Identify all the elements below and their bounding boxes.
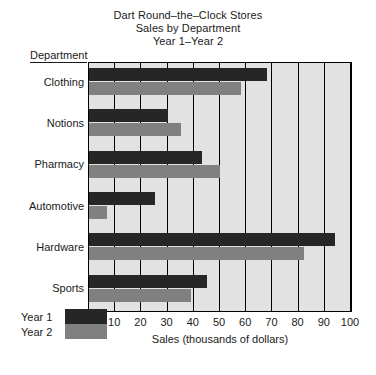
- bar: [89, 289, 191, 302]
- bar-chart: Dart Round–the–Clock Stores Sales by Dep…: [0, 0, 376, 375]
- chart-subtitle-2: Year 1–Year 2: [0, 35, 376, 48]
- category-axis-title: Department: [30, 49, 87, 63]
- value-tick-label: 90: [318, 316, 330, 328]
- bar: [89, 109, 168, 122]
- category-label: Pharmacy: [0, 158, 84, 170]
- category-axis-labels: ClothingNotionsPharmacyAutomotiveHardwar…: [0, 62, 84, 312]
- bar: [89, 165, 220, 178]
- bar-group: [89, 187, 351, 228]
- bar: [89, 192, 155, 205]
- value-tick-label: 40: [187, 316, 199, 328]
- legend-label-year-2: Year 2: [21, 326, 65, 338]
- bar-group: [89, 270, 351, 311]
- chart-legend: Year 1 Year 2: [21, 309, 107, 339]
- value-tick-label: 100: [341, 316, 359, 328]
- bar-group: [89, 228, 351, 269]
- value-tick-label: 50: [213, 316, 225, 328]
- legend-label-year-1: Year 1: [21, 311, 65, 323]
- category-label: Clothing: [0, 76, 84, 88]
- value-tick-label: 10: [108, 316, 120, 328]
- value-tick-label: 20: [134, 316, 146, 328]
- category-label: Notions: [0, 117, 84, 129]
- value-tick-label: 70: [265, 316, 277, 328]
- plot-area: [88, 62, 352, 312]
- bar: [89, 151, 202, 164]
- bar: [89, 123, 181, 136]
- legend-item-year-1: Year 1: [21, 309, 107, 324]
- bar: [89, 247, 304, 260]
- bar: [89, 206, 107, 219]
- bar: [89, 233, 335, 246]
- value-axis-tick-labels: 102030405060708090100: [88, 316, 352, 330]
- value-tick-label: 30: [160, 316, 172, 328]
- legend-item-year-2: Year 2: [21, 324, 107, 339]
- value-axis-title: Sales (thousands of dollars): [88, 333, 352, 345]
- legend-swatch-year-2: [65, 324, 107, 339]
- chart-title: Dart Round–the–Clock Stores: [0, 9, 376, 22]
- chart-subtitle: Sales by Department: [0, 22, 376, 35]
- bar-group: [89, 104, 351, 145]
- category-label: Hardware: [0, 241, 84, 253]
- category-label: Automotive: [0, 200, 84, 212]
- bar: [89, 68, 267, 81]
- bar: [89, 275, 207, 288]
- value-tick-label: 60: [239, 316, 251, 328]
- bar-group: [89, 146, 351, 187]
- category-label: Sports: [0, 282, 84, 294]
- bar-group: [89, 63, 351, 104]
- legend-swatch-year-1: [65, 309, 107, 324]
- chart-title-block: Dart Round–the–Clock Stores Sales by Dep…: [0, 9, 376, 48]
- bar: [89, 82, 241, 95]
- value-tick-label: 80: [291, 316, 303, 328]
